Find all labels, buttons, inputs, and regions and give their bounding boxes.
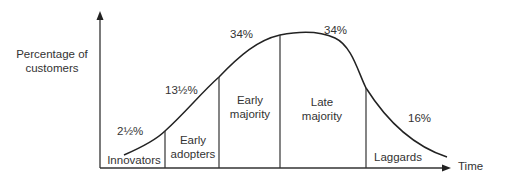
segment-label-line: Late: [290, 95, 354, 109]
segment-label-line: majority: [221, 107, 279, 121]
percent-innovators: 2½%: [117, 124, 143, 138]
percent-early-adopters: 13½%: [165, 83, 198, 97]
percent-early-majority: 34%: [230, 27, 253, 41]
segment-label-line: Laggards: [370, 150, 426, 164]
segment-label-early-majority: Early majority: [221, 93, 279, 121]
x-axis-arrow-icon: [442, 165, 451, 172]
percent-late-majority: 34%: [324, 23, 347, 37]
segment-label-line: Early: [221, 93, 279, 107]
segment-label-line: Innovators: [104, 153, 164, 167]
segment-label-line: adopters: [167, 147, 219, 161]
percent-laggards: 16%: [408, 111, 431, 125]
segment-label-late-majority: Late majority: [290, 95, 354, 123]
y-axis-label: Percentage of customers: [14, 47, 90, 75]
segment-label-innovators: Innovators: [104, 153, 164, 167]
segment-label-early-adopters: Early adopters: [167, 133, 219, 161]
segment-label-line: majority: [290, 109, 354, 123]
y-axis-label-line2: customers: [14, 61, 90, 75]
y-axis-label-line1: Percentage of: [14, 47, 90, 61]
segment-label-line: Early: [167, 133, 219, 147]
segment-label-laggards: Laggards: [370, 150, 426, 164]
x-axis-label: Time: [458, 159, 483, 173]
y-axis-arrow-icon: [97, 11, 104, 20]
